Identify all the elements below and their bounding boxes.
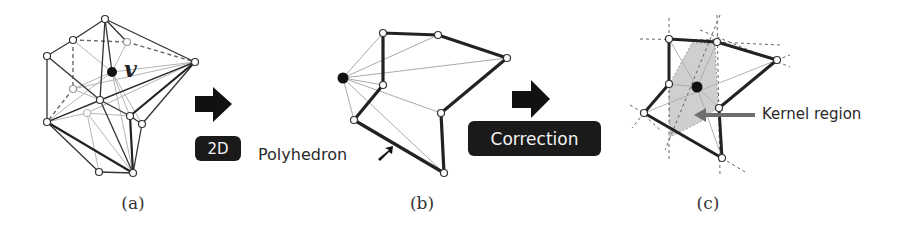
arrow-correction-icon [512,80,550,118]
caption-b: (b) [410,193,434,213]
step-2d-badge: 2D [195,136,241,161]
panel-c-kernel [630,15,790,175]
step-correction-label: Correction [491,129,579,149]
kernel-region-annotation: Kernel region [762,105,861,123]
panel-a-mesh [44,16,199,177]
step-2d-label: 2D [207,140,228,158]
caption-a: (a) [121,193,144,213]
caption-c: (c) [697,193,720,213]
vertex-v-dot [107,67,117,77]
vertex-v-label: v [124,56,137,82]
polyhedron-pointer-icon [378,146,393,161]
polyhedron-annotation: Polyhedron [258,145,347,164]
arrow-2d-icon [195,87,232,122]
step-correction-badge: Correction [468,121,601,156]
kernel-pointer-icon [694,108,755,122]
